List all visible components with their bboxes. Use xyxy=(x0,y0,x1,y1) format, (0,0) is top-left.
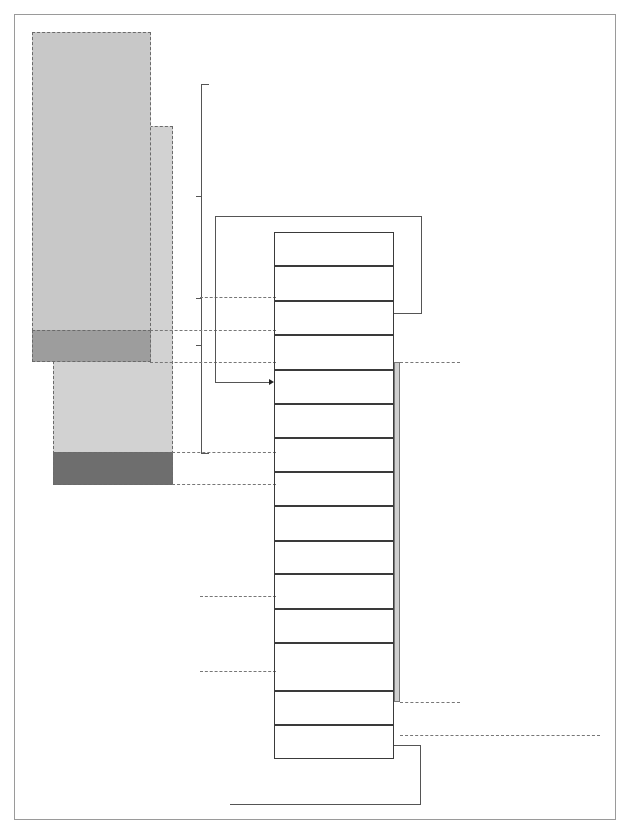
guide-line xyxy=(172,452,276,453)
offset-20-tick xyxy=(196,345,202,346)
brace-92-vertical xyxy=(201,84,202,454)
stack-cell xyxy=(274,438,394,472)
stack-cell xyxy=(274,643,394,691)
stack-cell xyxy=(274,335,394,370)
figure-caption xyxy=(180,0,460,4)
guide-line xyxy=(150,330,276,331)
guide-line xyxy=(200,596,276,597)
pointer-line xyxy=(421,216,422,314)
left-arg-upper xyxy=(32,330,151,362)
stack-cell xyxy=(274,232,394,266)
guide-line xyxy=(400,735,600,736)
brace-92-bottom-tick xyxy=(201,453,209,454)
pointer-line xyxy=(230,804,421,805)
pointer-line xyxy=(215,216,422,217)
stack-cell xyxy=(274,506,394,541)
pointer-line xyxy=(215,216,216,383)
stack-cell xyxy=(274,404,394,438)
left-object-main-block xyxy=(32,32,151,331)
memory-stack xyxy=(274,232,394,759)
stack-side-bar xyxy=(394,362,400,702)
stack-cell xyxy=(274,541,394,574)
guide-line xyxy=(400,362,460,363)
arrow-head-icon xyxy=(269,379,274,385)
stack-cell xyxy=(274,609,394,643)
guide-line xyxy=(200,671,276,672)
stack-cell xyxy=(274,301,394,335)
stack-cell xyxy=(274,725,394,759)
pointer-line xyxy=(420,745,421,805)
guide-line xyxy=(150,362,276,363)
left-arg-lower xyxy=(53,452,173,485)
guide-line xyxy=(400,702,460,703)
pointer-line xyxy=(394,313,422,314)
brace-92-mid-tick xyxy=(196,196,202,197)
stack-cell xyxy=(274,691,394,725)
pointer-line xyxy=(394,745,420,746)
brace-mid-tick xyxy=(196,298,202,299)
stack-cell xyxy=(274,370,394,404)
brace-92-top-tick xyxy=(201,84,209,85)
pointer-line xyxy=(215,382,269,383)
stack-cell xyxy=(274,266,394,301)
guide-line xyxy=(200,297,276,298)
guide-line xyxy=(172,484,276,485)
stack-cell xyxy=(274,574,394,609)
stack-cell xyxy=(274,472,394,506)
